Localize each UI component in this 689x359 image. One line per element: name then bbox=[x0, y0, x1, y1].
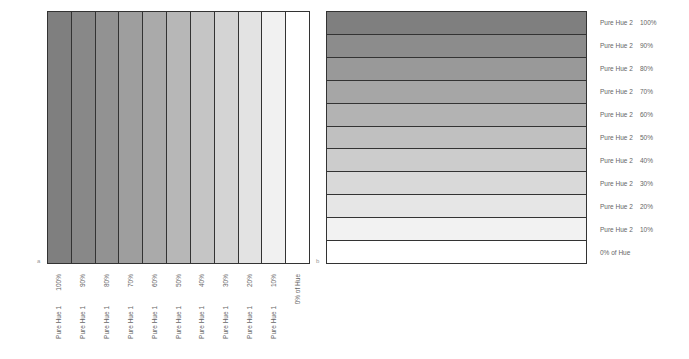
row-hue-label: Pure Hue 2 bbox=[600, 65, 633, 72]
row-percent-label: 10% bbox=[640, 226, 653, 233]
swatch-column bbox=[215, 12, 239, 263]
row-percent-label: 40% bbox=[640, 157, 653, 164]
row-percent-label: 70% bbox=[640, 88, 653, 95]
column-percent-label: 70% bbox=[127, 274, 134, 287]
swatch-column bbox=[143, 12, 167, 263]
row-hue-label: Pure Hue 2 bbox=[600, 203, 633, 210]
swatch-row bbox=[327, 35, 586, 58]
column-hue-label: Pure Hue 1 bbox=[198, 306, 205, 339]
column-percent-label: 40% bbox=[198, 274, 205, 287]
column-hue-label: Pure Hue 1 bbox=[151, 306, 158, 339]
swatch-row bbox=[327, 104, 586, 127]
row-hue-label: Pure Hue 2 bbox=[600, 134, 633, 141]
swatch-column bbox=[286, 12, 309, 263]
swatch-row bbox=[327, 195, 586, 218]
row-hue-label: Pure Hue 2 bbox=[600, 157, 633, 164]
swatch-row bbox=[327, 149, 586, 172]
swatch-column bbox=[239, 12, 263, 263]
row-percent-label: 90% bbox=[640, 42, 653, 49]
column-hue-label: Pure Hue 1 bbox=[127, 306, 134, 339]
swatch-row bbox=[327, 127, 586, 150]
row-percent-label: 20% bbox=[640, 203, 653, 210]
swatch-column bbox=[262, 12, 286, 263]
swatch-row bbox=[327, 172, 586, 195]
column-hue-label: Pure Hue 1 bbox=[246, 306, 253, 339]
column-percent-label: 90% bbox=[79, 274, 86, 287]
hue-scale-vertical-columns bbox=[47, 11, 310, 264]
swatch-column bbox=[191, 12, 215, 263]
panel-a-label: a bbox=[37, 258, 40, 264]
column-percent-label: 10% bbox=[270, 274, 277, 287]
row-percent-label: 50% bbox=[640, 134, 653, 141]
row-hue-label: Pure Hue 2 bbox=[600, 226, 633, 233]
column-percent-label: 50% bbox=[175, 274, 182, 287]
column-hue-label: Pure Hue 1 bbox=[103, 306, 110, 339]
swatch-column bbox=[96, 12, 120, 263]
column-hue-label: Pure Hue 1 bbox=[270, 306, 277, 339]
column-percent-label: 20% bbox=[246, 274, 253, 287]
swatch-column bbox=[167, 12, 191, 263]
row-hue-label: Pure Hue 2 bbox=[600, 19, 633, 26]
row-hue-label: Pure Hue 2 bbox=[600, 111, 633, 118]
column-percent-label: 0% of Hue bbox=[294, 274, 301, 304]
swatch-row bbox=[327, 81, 586, 104]
column-percent-label: 60% bbox=[151, 274, 158, 287]
column-percent-label: 100% bbox=[55, 274, 62, 291]
hue-scale-horizontal-rows bbox=[326, 11, 587, 264]
row-percent-label: 30% bbox=[640, 180, 653, 187]
column-hue-label: Pure Hue 1 bbox=[79, 306, 86, 339]
row-percent-label: 80% bbox=[640, 65, 653, 72]
swatch-column bbox=[48, 12, 72, 263]
swatch-column bbox=[119, 12, 143, 263]
row-hue-label: Pure Hue 2 bbox=[600, 42, 633, 49]
swatch-row bbox=[327, 241, 586, 263]
swatch-row bbox=[327, 218, 586, 241]
panel-b-label: b bbox=[316, 258, 319, 264]
row-hue-label: Pure Hue 2 bbox=[600, 88, 633, 95]
row-percent-label: 60% bbox=[640, 111, 653, 118]
column-hue-label: Pure Hue 1 bbox=[175, 306, 182, 339]
column-percent-label: 80% bbox=[103, 274, 110, 287]
swatch-row bbox=[327, 12, 586, 35]
swatch-row bbox=[327, 58, 586, 81]
column-hue-label: Pure Hue 1 bbox=[55, 306, 62, 339]
swatch-column bbox=[72, 12, 96, 263]
column-hue-label: Pure Hue 1 bbox=[222, 306, 229, 339]
column-percent-label: 30% bbox=[222, 274, 229, 287]
row-hue-label: Pure Hue 2 bbox=[600, 180, 633, 187]
row-hue-label: 0% of Hue bbox=[600, 249, 630, 256]
row-percent-label: 100% bbox=[640, 19, 657, 26]
